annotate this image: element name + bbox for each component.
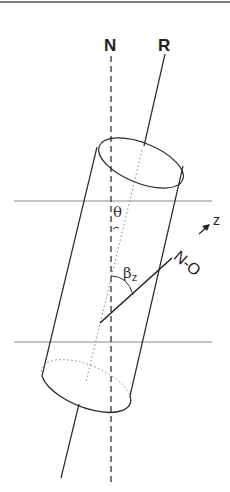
beta-z-label: βz <box>123 266 137 281</box>
normal-axis-label: N <box>104 37 116 54</box>
z-direction-arrow-icon <box>199 224 210 234</box>
cylinder-top-ellipse <box>92 128 190 199</box>
cylinder-orientation-diagram: N R θ βz N-O z <box>0 0 230 492</box>
z-axis-label: z <box>213 213 220 227</box>
rotor-axis-bottom-segment <box>61 404 79 478</box>
theta-label: θ <box>113 205 122 220</box>
theta-angle-arc <box>113 227 119 229</box>
beta-subscript: z <box>132 271 138 283</box>
cylinder-bottom-ellipse-visible <box>42 376 131 412</box>
rotor-axis-label: R <box>158 37 170 54</box>
rotor-axis-top-segment <box>144 54 165 146</box>
cylinder-bottom-ellipse-hidden <box>41 360 130 396</box>
beta-symbol: β <box>123 264 132 282</box>
diagram-canvas <box>0 0 230 492</box>
